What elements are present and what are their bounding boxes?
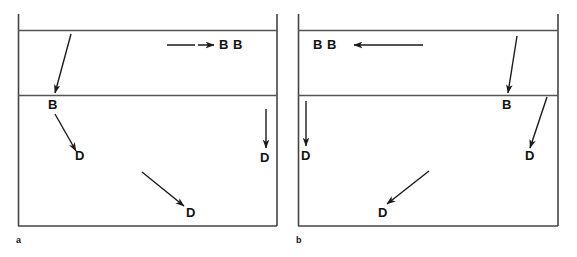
panel-b-frame (298, 14, 558, 226)
panel-b-label-d-right: D (525, 149, 535, 162)
panel-a-label-d-upper-left: D (75, 149, 85, 162)
panel-a-label-d-lower-middle: D (186, 206, 196, 219)
panel-a-label-b-top-right: B B (219, 38, 243, 51)
arrow-diagonal-to-d-lower-middle (387, 171, 429, 204)
panel-b-label-b-top-left: B B (313, 38, 337, 51)
figure-line-art (0, 0, 577, 257)
panel-b-caption: b (296, 236, 302, 245)
panel-a-label-b-mid-left: B (48, 98, 58, 111)
panel-b-arrows (306, 36, 547, 204)
arrow-diagonal-down-to-b (55, 34, 71, 93)
panel-b-label-d-left: D (301, 149, 311, 162)
arrow-diagonal-to-d-lower-middle (142, 172, 184, 206)
arrow-b-to-d-upper-left (55, 114, 76, 151)
arrow-diagonal-down-to-b (508, 36, 517, 93)
panel-b-label-b-mid-right: B (502, 98, 512, 111)
figure-root: B B B D D D B B B D D D a b (0, 0, 577, 257)
panel-a-label-d-right: D (260, 151, 270, 164)
arrow-b-to-d-right (530, 97, 547, 148)
panel-a-caption: a (16, 236, 21, 245)
panel-a-arrows (55, 34, 266, 206)
panel-b-label-d-lower-middle: D (378, 206, 388, 219)
